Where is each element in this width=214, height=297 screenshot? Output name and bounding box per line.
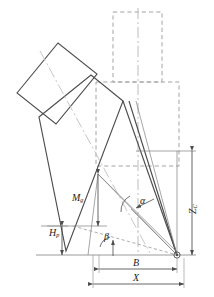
schematic-svg (0, 0, 214, 297)
label-beta: β (104, 232, 109, 242)
label-zc: ZC (188, 204, 198, 214)
label-hp: Hp (49, 228, 59, 238)
boom-taper-lines (123, 101, 177, 255)
label-alpha: α (140, 196, 145, 206)
label-b: B (133, 258, 139, 268)
figure-canvas: Mg Hp ZC B X α β (0, 0, 214, 297)
label-x: X (133, 273, 139, 283)
mast-rectangle (17, 43, 97, 124)
label-mg: Mg (72, 193, 83, 203)
boom-body-outline (39, 75, 123, 251)
boom-centerline (40, 51, 150, 253)
construction-lines (88, 101, 177, 255)
